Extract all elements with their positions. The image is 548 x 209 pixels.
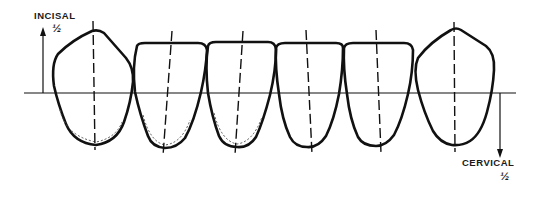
cervical-label: CERVICAL: [462, 158, 514, 168]
teeth-diagram: [0, 0, 548, 209]
tooth-lateral-incisor-right: [344, 30, 413, 153]
cervical-arrow-icon: [497, 93, 503, 158]
tooth-canine-right: [416, 22, 495, 152]
incisal-label: INCISAL: [34, 11, 76, 21]
incisal-fraction-label: ½: [52, 23, 62, 34]
incisal-arrow-icon: [40, 27, 46, 93]
tooth-canine-left: [53, 21, 133, 150]
tooth-central-incisor-right: [276, 30, 343, 154]
cervical-fraction-label: ½: [500, 171, 510, 182]
